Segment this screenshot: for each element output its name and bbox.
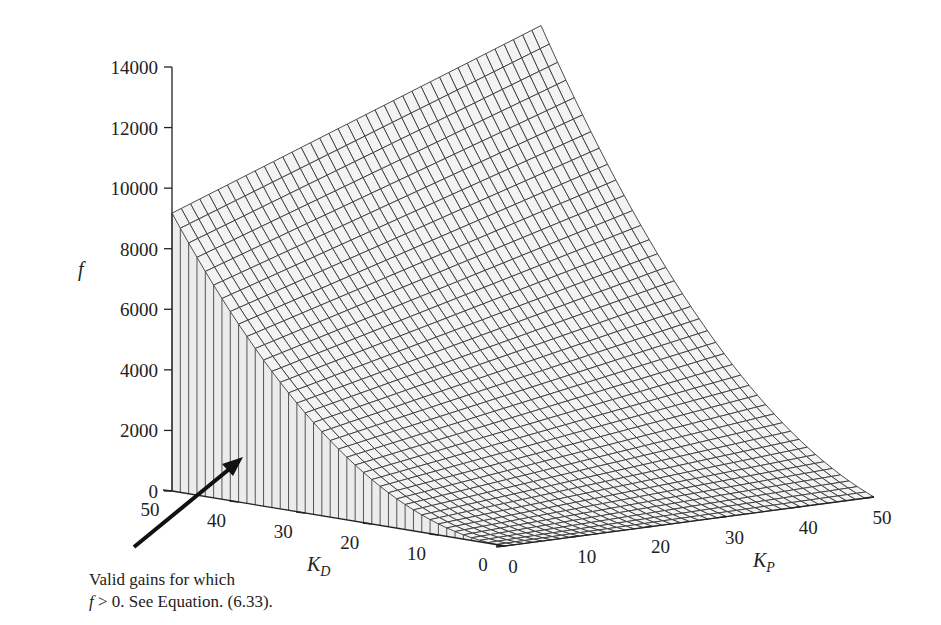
z-tick-label: 12000 — [111, 118, 159, 139]
kd-tick-label: 40 — [207, 510, 226, 531]
annotation-line-1: Valid gains for which — [89, 570, 235, 589]
z-tick-label: 10000 — [111, 178, 159, 199]
kp-tick-label: 0 — [508, 556, 518, 577]
kd-tick-label: 30 — [274, 521, 293, 542]
kp-tick-label: 20 — [651, 536, 670, 557]
x-axis-label-kp: KP — [752, 549, 775, 575]
surface-plot: 0200040006000800010000120001400001020304… — [0, 0, 941, 625]
z-axis-label: f — [78, 258, 86, 281]
kd-tick-label: 20 — [340, 532, 359, 553]
y-axis-label-kd: KD — [306, 553, 330, 579]
kd-tick-label: 0 — [478, 554, 488, 575]
z-tick-label: 4000 — [120, 360, 158, 381]
z-tick-label: 14000 — [111, 57, 159, 78]
surface-mesh — [172, 26, 874, 546]
kp-tick-label: 50 — [873, 507, 892, 528]
z-tick-label: 6000 — [120, 299, 158, 320]
kd-tick-label: 50 — [141, 499, 160, 520]
kp-tick-label: 10 — [577, 546, 596, 567]
z-tick-label: 8000 — [120, 239, 158, 260]
z-tick-label: 2000 — [120, 420, 158, 441]
kp-tick-label: 40 — [799, 517, 818, 538]
annotation-line-2: f > 0. See Equation. (6.33). — [89, 592, 273, 611]
kp-tick-label: 30 — [725, 527, 744, 548]
kd-tick-label: 10 — [407, 543, 426, 564]
